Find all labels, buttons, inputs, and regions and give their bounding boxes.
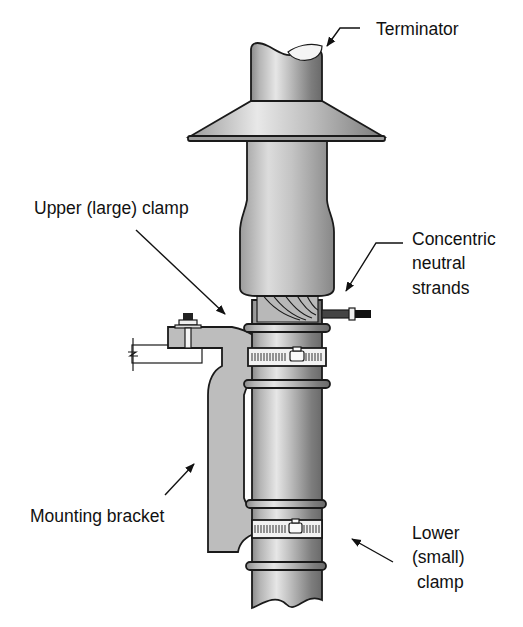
terminator bbox=[188, 43, 385, 296]
label-lower-1: Lower bbox=[412, 523, 460, 543]
label-concentric-3: strands bbox=[412, 278, 470, 298]
lower-clamp-leader bbox=[352, 539, 393, 562]
terminator-leader bbox=[327, 28, 360, 46]
label-mounting-bracket: Mounting bracket bbox=[30, 506, 164, 526]
label-upper-clamp: Upper (large) clamp bbox=[34, 198, 189, 218]
label-concentric-2: neutral bbox=[412, 253, 466, 273]
label-lower-2: (small) bbox=[412, 547, 465, 567]
upper-clamp-leader bbox=[136, 230, 225, 314]
label-terminator: Terminator bbox=[376, 19, 459, 39]
label-lower-3: clamp bbox=[417, 572, 464, 592]
terminator-mounting-diagram: Terminator Upper (large) clamp Concentri… bbox=[0, 0, 523, 627]
concentric-leader bbox=[346, 243, 403, 291]
label-concentric-1: Concentric bbox=[412, 229, 496, 249]
mounting-bracket-leader bbox=[165, 464, 194, 495]
